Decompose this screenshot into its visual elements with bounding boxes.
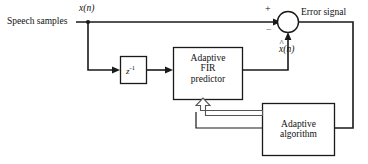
error-signal-label: Error signal xyxy=(301,7,346,17)
predictor-label-line1: Adaptive xyxy=(173,53,243,63)
delay-block-label: z-1 xyxy=(126,64,135,77)
algorithm-label-line2: algorithm xyxy=(262,129,335,139)
predicted-signal-hat: ^ xyxy=(280,39,284,49)
sum-minus-sign: − xyxy=(266,25,272,36)
block-diagram: Speech samples x(n) + − Error signal ^x(… xyxy=(0,0,368,164)
delay-label-exponent: -1 xyxy=(130,64,135,71)
coefficient-update-arrow xyxy=(196,98,263,116)
predictor-block-label: Adaptive FIR predictor xyxy=(173,53,243,84)
delay-input-wire xyxy=(88,22,120,73)
delay-to-predictor-wire xyxy=(147,67,173,74)
input-signal-arg: (n) xyxy=(83,3,94,13)
summing-junction xyxy=(278,12,299,33)
sum-plus-sign: + xyxy=(265,4,271,15)
predictor-label-line3: predictor xyxy=(173,74,243,84)
input-source-label: Speech samples xyxy=(7,16,67,26)
algorithm-block-label: Adaptive algorithm xyxy=(262,119,335,140)
predictor-label-line2: FIR xyxy=(173,63,243,73)
predicted-signal-arg: (n) xyxy=(283,44,294,54)
input-signal-label: x(n) xyxy=(79,3,94,13)
algorithm-label-line1: Adaptive xyxy=(262,119,335,129)
predicted-signal-label: ^x(n) xyxy=(279,44,294,54)
